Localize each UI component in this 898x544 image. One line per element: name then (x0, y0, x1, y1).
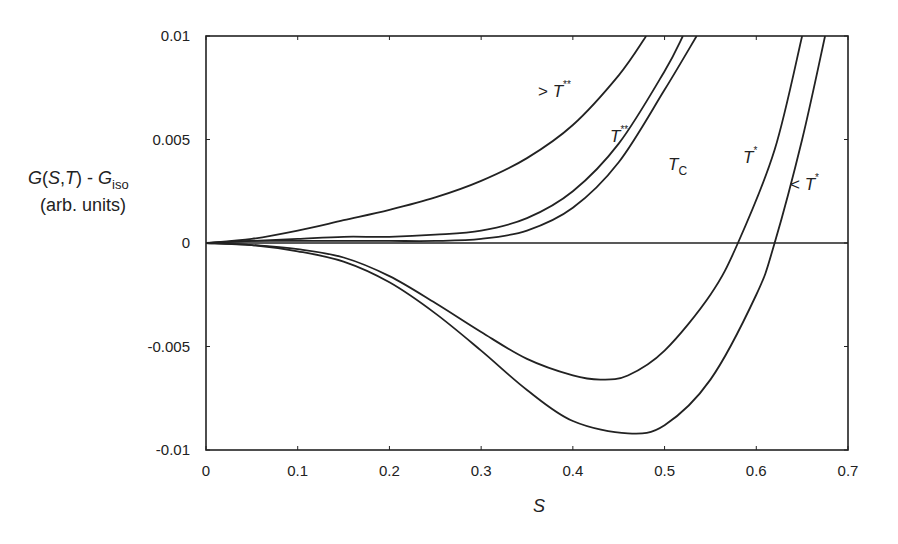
y-tick-label: -0.005 (147, 338, 190, 355)
series-label: TC (668, 155, 687, 178)
y-tick-label: 0.005 (152, 131, 190, 148)
x-tick-label: 0.3 (471, 462, 492, 479)
x-tick-label: 0 (202, 462, 210, 479)
x-tick-label: 0.6 (746, 462, 767, 479)
series-label: T* (743, 145, 757, 167)
series-annotations: > T**T**TCT*< T* (538, 79, 819, 194)
y-axis-label: G(S,T) - Giso (28, 168, 129, 192)
series-line (206, 36, 802, 380)
y-tick-label: 0.01 (161, 27, 190, 44)
x-tick-label: 0.1 (287, 462, 308, 479)
axes: 00.10.20.30.40.50.60.70.010.0050-0.005-0… (28, 27, 858, 516)
y-tick-label: -0.01 (156, 441, 190, 458)
chart: 00.10.20.30.40.50.60.70.010.0050-0.005-0… (0, 0, 898, 544)
x-tick-label: 0.2 (379, 462, 400, 479)
y-tick-label: 0 (182, 234, 190, 251)
series-label: < T* (790, 172, 819, 194)
series-line (206, 36, 825, 434)
series-label: > T** (538, 79, 571, 101)
series-line (206, 36, 697, 243)
plot-area (206, 36, 848, 434)
x-tick-label: 0.7 (838, 462, 859, 479)
x-axis-label: S (533, 496, 545, 516)
x-tick-label: 0.4 (562, 462, 583, 479)
y-axis-units: (arb. units) (40, 195, 126, 215)
series-line (206, 36, 646, 243)
x-tick-label: 0.5 (654, 462, 675, 479)
